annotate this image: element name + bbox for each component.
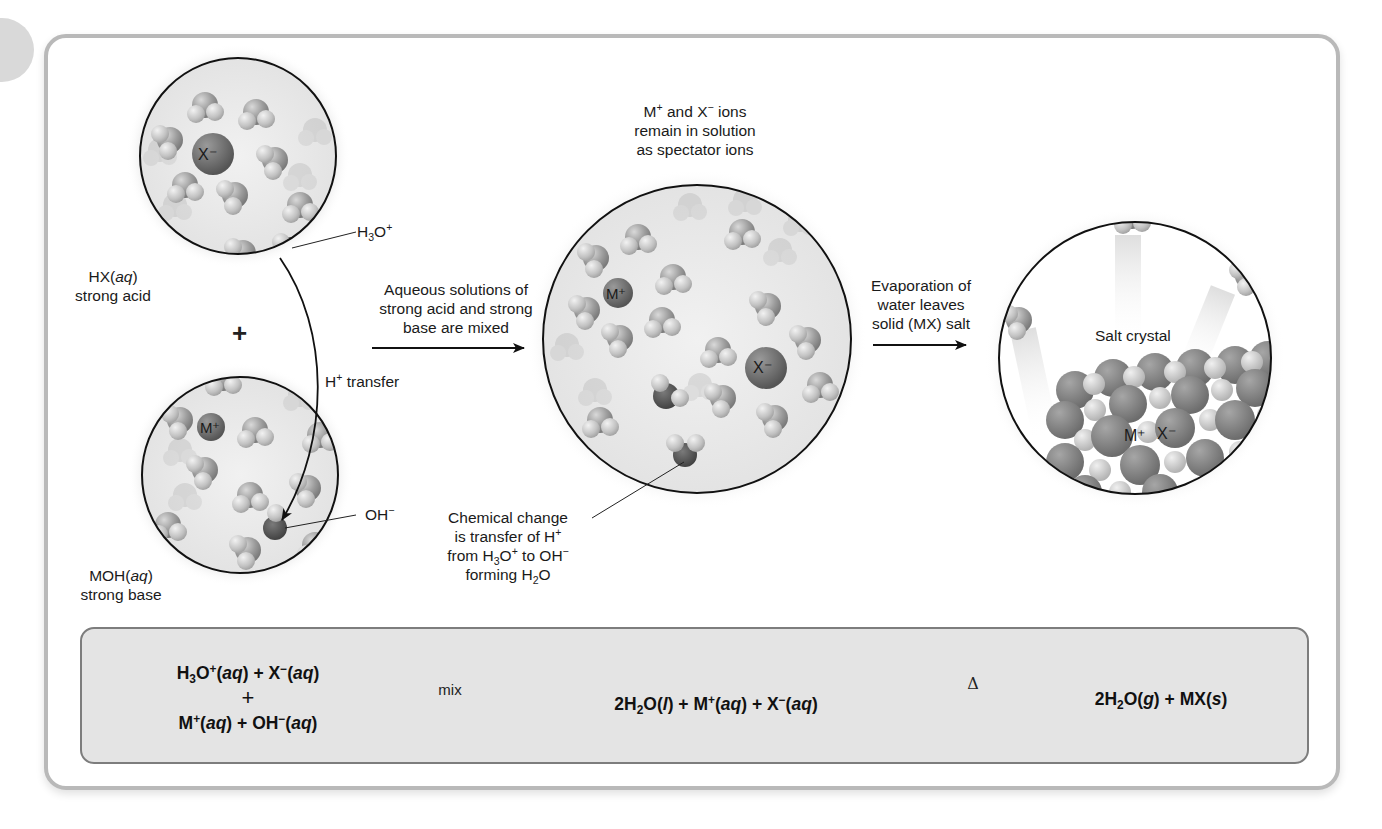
mixed-solution-circle xyxy=(527,169,867,509)
hydroxide-label: OH− xyxy=(365,505,394,524)
reactants-line-1: H3O+(aq) + X−(aq) xyxy=(138,662,358,684)
hydronium-label: H3O+ xyxy=(357,222,392,241)
salt-crystal-caption: Salt crystal xyxy=(1095,326,1171,345)
reactants-plus: + xyxy=(138,687,358,709)
salt-cation-label: M⁺ xyxy=(1124,426,1145,445)
acid-caption: HX(aq) strong acid xyxy=(58,267,168,305)
middle-cation-label: M⁺ xyxy=(606,284,627,303)
base-cation-label: M⁺ xyxy=(200,418,221,437)
mix-arrow-label: mix xyxy=(420,681,480,698)
evaporation-caption: Evaporation of water leaves solid (MX) s… xyxy=(856,276,986,333)
chemical-change-caption: Chemical change is transfer of H+ from H… xyxy=(428,508,588,584)
acid-solution-circle xyxy=(126,44,350,273)
salt-anion-label: X⁻ xyxy=(1157,424,1176,443)
intermediate-equation: 2H2O(l) + M+(aq) + X−(aq) xyxy=(566,693,866,715)
acid-anion-label: X⁻ xyxy=(198,145,217,164)
plus-sign: + xyxy=(232,318,247,349)
products-equation: 2H2O(g) + MX(s) xyxy=(1066,688,1256,710)
reactants-line-2: M+(aq) + OH−(aq) xyxy=(138,712,358,734)
h-transfer-label: H+ transfer xyxy=(325,372,399,391)
spectator-ions-caption: M+ and X− ions remain in solution as spe… xyxy=(590,102,800,159)
heat-arrow-label: Δ xyxy=(958,674,988,693)
mix-arrow-caption: Aqueous solutions of strong acid and str… xyxy=(366,280,546,337)
middle-anion-label: X⁻ xyxy=(753,358,772,377)
salt-crystal-circle xyxy=(985,203,1287,510)
base-caption: MOH(aq) strong base xyxy=(66,566,176,604)
